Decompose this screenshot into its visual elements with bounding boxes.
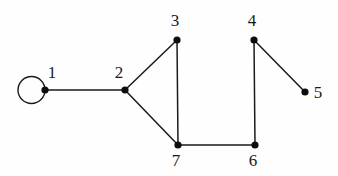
edge-2-7: [125, 90, 178, 145]
vertex-label-3: 3: [165, 12, 185, 29]
vertex-node-4: [250, 36, 257, 43]
self-loop-vertex-1: [18, 77, 45, 104]
edge-4-5: [254, 40, 305, 92]
vertex-node-2: [121, 86, 128, 93]
edge-2-3: [125, 40, 177, 90]
vertex-label-5: 5: [308, 84, 328, 101]
edge-layer: [45, 40, 305, 145]
vertex-label-6: 6: [243, 152, 263, 169]
vertex-label-4: 4: [242, 12, 262, 29]
loop-layer: [18, 77, 45, 104]
vertex-label-1: 1: [42, 64, 62, 81]
vertex-node-1: [41, 86, 48, 93]
vertex-node-7: [174, 141, 181, 148]
vertex-label-2: 2: [109, 64, 129, 81]
vertex-label-7: 7: [166, 152, 186, 169]
edge-6-4: [254, 40, 255, 145]
vertex-layer: [41, 36, 308, 148]
graph-diagram-canvas: 1234567: [0, 0, 338, 176]
vertex-node-3: [173, 36, 180, 43]
edge-3-7: [177, 40, 178, 145]
vertex-node-6: [251, 141, 258, 148]
